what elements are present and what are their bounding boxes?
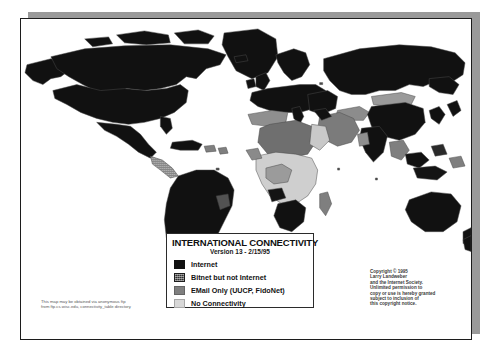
map-page-sheet: INTERNATIONAL CONNECTIVITY Version 13 - … [20, 18, 472, 340]
ftp-note-line-2: from ftp.cs.wisc.edu, connectivity_table… [41, 304, 191, 309]
legend-label-email-only: EMail Only (UUCP, FidoNet) [191, 286, 285, 295]
legend-swatch-email-only [174, 286, 185, 295]
copyright-line-7: this copyright notice. [370, 301, 466, 306]
legend-item-internet: Internet [172, 258, 308, 271]
legend-item-no-connectivity: No Connectivity [172, 297, 308, 310]
ftp-availability-note: This map may be obtained via anonymous f… [41, 299, 191, 309]
legend-version: Version 13 - 2/15/95 [172, 248, 308, 256]
legend-label-no-connectivity: No Connectivity [191, 299, 246, 308]
legend-item-bitnet: Bitnet but not Internet [172, 271, 308, 284]
legend-swatch-bitnet [174, 273, 185, 282]
scanned-page-root: INTERNATIONAL CONNECTIVITY Version 13 - … [0, 0, 495, 362]
legend-items: Internet Bitnet but not Internet EMail O… [172, 258, 308, 310]
legend-title: INTERNATIONAL CONNECTIVITY [172, 238, 308, 248]
legend-item-email-only: EMail Only (UUCP, FidoNet) [172, 284, 308, 297]
legend-swatch-internet [174, 260, 185, 269]
map-legend: INTERNATIONAL CONNECTIVITY Version 13 - … [166, 233, 314, 308]
region-south-asia-variant [358, 132, 370, 146]
legend-label-bitnet: Bitnet but not Internet [191, 273, 266, 282]
copyright-notice: Copyright © 1995 Larry Landweber and the… [370, 269, 466, 307]
legend-label-internet: Internet [191, 260, 217, 269]
